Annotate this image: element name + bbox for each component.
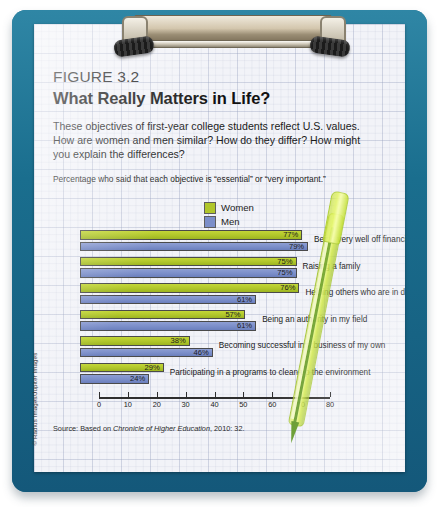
figure-title: What Really Matters in Life? (53, 89, 386, 108)
x-axis-tick-label: 70 (297, 400, 305, 409)
graph-paper-sheet: FIGURE 3.2 What Really Matters in Life? … (34, 24, 405, 472)
legend-swatch-women (204, 202, 216, 214)
x-axis-tick-label: 30 (182, 400, 190, 409)
legend-label-women: Women (221, 202, 254, 213)
legend-label-men: Men (221, 216, 240, 227)
figure-subtitle: Percentage who said that each objective … (53, 174, 386, 184)
bar-men: 79% (80, 242, 308, 252)
category-label: Being very well off financially (314, 235, 405, 244)
bar-group: 76%61%Helping others who are in difficul… (53, 282, 367, 309)
source-prefix: Source: Based on (53, 424, 113, 433)
bar-group: 75%75%Raising a family (53, 256, 367, 283)
x-axis-tick (215, 392, 216, 397)
x-axis-tick-label: 40 (210, 400, 218, 409)
bar-women: 57% (80, 310, 245, 320)
figure-number: FIGURE 3.2 (53, 68, 386, 86)
bar-value-label: 76% (280, 283, 298, 292)
clipboard: FIGURE 3.2 What Really Matters in Life? … (12, 10, 427, 492)
x-axis-tick-label: 10 (124, 400, 132, 409)
bar-group: 29%24%Participating in a programs to cle… (53, 362, 367, 389)
bar-men: 75% (80, 268, 297, 278)
legend-item-women: Women (204, 201, 254, 214)
clipboard-clip (120, 12, 344, 64)
bar-value-label: 61% (237, 321, 255, 330)
bar-women: 75% (80, 257, 297, 267)
x-axis-tick (330, 392, 331, 397)
bar-value-label: 79% (289, 242, 307, 251)
bar-men: 61% (80, 321, 256, 331)
clip-spring-bar (146, 40, 320, 48)
bar-women: 29% (80, 363, 164, 373)
figure-header: FIGURE 3.2 What Really Matters in Life? … (53, 68, 386, 193)
bar-value-label: 46% (194, 348, 212, 357)
x-axis-line (99, 397, 330, 399)
x-axis-tick (272, 392, 273, 397)
bar-value-label: 77% (283, 230, 301, 239)
bar-group: 77%79%Being very well off financially (53, 229, 367, 256)
category-label: Being an authority in my field (262, 315, 367, 324)
x-axis-tick (99, 392, 100, 397)
bar-value-label: 61% (237, 295, 255, 304)
x-axis-tick-label: 20 (153, 400, 161, 409)
bar-value-label: 75% (277, 268, 295, 277)
bar-women: 76% (80, 283, 299, 293)
category-label: Helping others who are in difficulty (305, 288, 405, 297)
x-axis-tick (157, 392, 158, 397)
bar-men: 24% (80, 374, 149, 384)
x-axis-tick-label: 60 (268, 400, 276, 409)
x-axis-tick (301, 392, 302, 397)
bar-value-label: 57% (225, 310, 243, 319)
bar-groups: 77%79%Being very well off financially75%… (53, 229, 367, 388)
bar-men: 46% (80, 348, 213, 358)
bar-value-label: 38% (171, 336, 189, 345)
bar-value-label: 29% (145, 363, 163, 372)
pen-tip (287, 421, 299, 444)
source-publication: Chronicle of Higher Education (113, 424, 210, 433)
bar-women: 77% (80, 230, 302, 240)
category-label: Participating in a programs to clean up … (170, 368, 371, 377)
x-axis-tick-label: 0 (97, 400, 101, 409)
clip-plate (134, 15, 332, 43)
bar-chart: 77%79%Being very well off financially75%… (53, 229, 367, 409)
bar-group: 38%46%Becoming successful in a business … (53, 335, 367, 362)
figure-intro-text: These objectives of first-year college s… (53, 119, 365, 162)
category-label: Raising a family (303, 262, 361, 271)
bar-group: 57%61%Being an authority in my field (53, 309, 367, 336)
source-note: Source: Based on Chronicle of Higher Edu… (53, 424, 245, 433)
legend-item-men: Men (204, 215, 254, 228)
x-axis-tick (186, 392, 187, 397)
bar-men: 61% (80, 295, 256, 305)
clip-grip-left (113, 35, 155, 57)
x-axis-tick (243, 392, 244, 397)
x-axis-tick (128, 392, 129, 397)
source-suffix: , 2010: 32. (210, 424, 245, 433)
chart-legend: Women Men (204, 201, 254, 229)
bar-value-label: 24% (130, 374, 148, 383)
bar-value-label: 75% (277, 257, 295, 266)
x-axis-tick-label: 80 (326, 400, 334, 409)
category-label: Becoming successful in a business of my … (219, 341, 386, 350)
bar-women: 38% (80, 336, 190, 346)
image-credit: © Radius Images/Jupiter Images (31, 326, 38, 446)
legend-swatch-men (204, 216, 216, 228)
x-axis-tick-label: 50 (239, 400, 247, 409)
